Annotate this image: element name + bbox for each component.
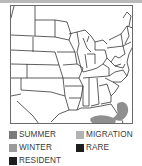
legend-item-winter: WINTER [9,143,52,153]
range-map [10,5,133,124]
summer-swatch-icon [9,131,17,139]
legend-label: RESIDENT [19,156,61,166]
legend-item-summer: SUMMER [9,130,56,140]
legend-label: MIGRATION [86,130,133,140]
legend-label: SUMMER [19,130,56,140]
legend-label: RARE [86,143,109,153]
winter-swatch-icon [9,144,17,152]
legend-item-migration: MIGRATION [76,130,133,140]
legend-label: WINTER [19,143,52,153]
rare-swatch-icon [76,144,84,152]
resident-swatch-icon [9,157,17,165]
us-states-outline-map [11,6,133,124]
state-boundaries [11,6,133,124]
legend-item-resident: RESIDENT [9,156,61,166]
migration-swatch-icon [76,131,84,139]
top-border-band [0,0,142,3]
range-area-atlantic [113,102,128,121]
range-area-gulf-keys [90,115,116,124]
legend-item-rare: RARE [76,143,109,153]
